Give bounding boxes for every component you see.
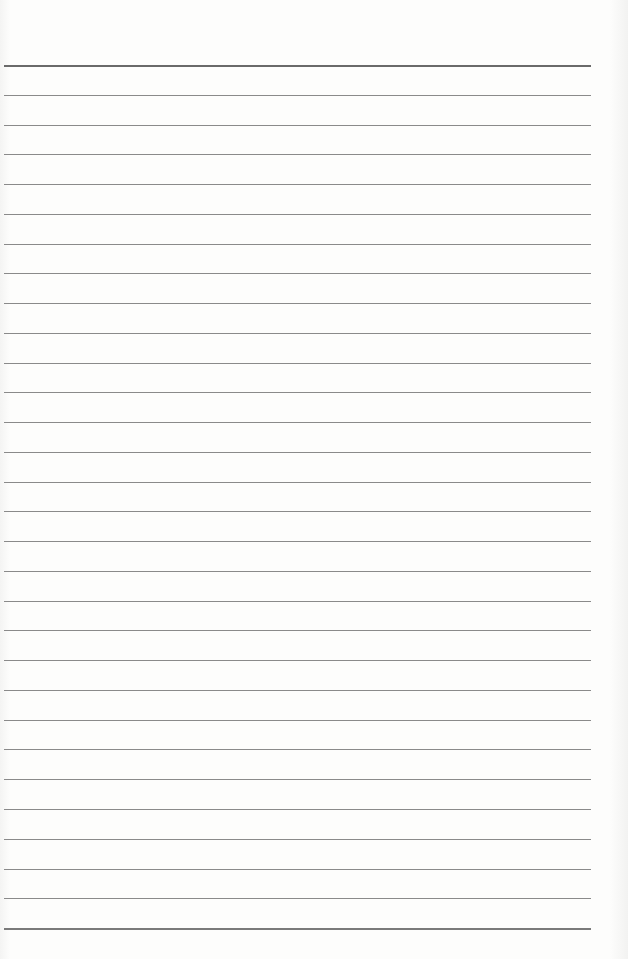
ruled-line (4, 541, 591, 542)
ruled-line (4, 303, 591, 304)
ruled-line (4, 482, 591, 483)
ruled-line (4, 630, 591, 631)
ruled-line (4, 779, 591, 780)
ruled-line (4, 214, 591, 215)
ruled-line (4, 869, 591, 870)
ruled-line (4, 422, 591, 423)
ruled-line (4, 809, 591, 810)
ruled-line (4, 660, 591, 661)
ruled-line (4, 898, 591, 899)
ruled-line (4, 125, 591, 126)
ruled-line (4, 601, 591, 602)
ruled-line (4, 511, 591, 512)
ruled-line (4, 95, 591, 96)
ruled-line (4, 184, 591, 185)
ruled-line (4, 749, 591, 750)
ruled-line (4, 333, 591, 334)
ruled-line (4, 244, 591, 245)
ruled-line (4, 690, 591, 691)
ruled-line (4, 720, 591, 721)
ruled-line (4, 928, 591, 930)
ruled-line (4, 392, 591, 393)
ruled-line (4, 65, 591, 67)
ruled-line (4, 839, 591, 840)
ruled-line (4, 154, 591, 155)
ruled-paper-page (0, 0, 628, 959)
ruled-line (4, 452, 591, 453)
ruled-line (4, 571, 591, 572)
ruled-line (4, 363, 591, 364)
ruled-line (4, 273, 591, 274)
